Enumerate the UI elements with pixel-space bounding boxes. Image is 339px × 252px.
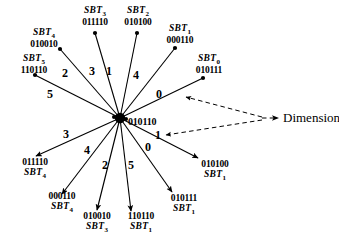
node-sbt-bot-left-1: SBT4 <box>3 168 67 180</box>
edge-label-up-1: 1 <box>106 64 112 79</box>
node-address-right-far: 010111 <box>177 66 241 76</box>
node-label-bot-left-1: 011110 SBT4 <box>3 158 67 180</box>
edge-label-up-5: 5 <box>47 87 53 102</box>
node-address-left-far: 110110 <box>3 66 65 76</box>
node-label-left-far: SBT5 110110 <box>3 54 65 76</box>
node-sbt-right-low: SBT1 <box>183 170 247 182</box>
edge-label-up-2: 2 <box>62 66 68 81</box>
annotation-arrow-to-1 <box>166 120 262 135</box>
spoke-dim-2-up <box>60 49 120 118</box>
annotation-arrow-to-0 <box>186 97 262 117</box>
edge-label-down-0: 0 <box>145 140 151 155</box>
edge-label-down-4: 4 <box>84 143 90 158</box>
node-sbt-bot-right-1: SBT1 <box>152 204 216 216</box>
node-label-bot-right-1: 010111 SBT1 <box>152 194 216 216</box>
center-node-address: 010110 <box>128 116 156 127</box>
spoke-dim-3-down <box>36 118 120 156</box>
edge-label-up-0: 0 <box>156 87 162 102</box>
edge-label-up-3: 3 <box>89 64 95 79</box>
edge-label-up-4: 4 <box>133 68 139 83</box>
node-sbt-bot-2: SBT1 <box>110 222 172 234</box>
edge-label-down-3: 3 <box>63 127 69 142</box>
node-address-top-right-1: 000110 <box>148 36 212 46</box>
spoke-dim-4-down <box>62 118 120 194</box>
edge-label-down-2: 2 <box>102 158 108 173</box>
spoke-dim-2-down <box>97 118 120 210</box>
figure-canvas: SBT4 010010 SBT3 011110 SBT2 010100 SBT1… <box>0 0 339 252</box>
edge-label-down-1: 1 <box>155 128 161 143</box>
dimension-annotation-label: Dimension <box>283 110 339 126</box>
node-address-top-left-2: 010010 <box>12 40 76 50</box>
node-label-right-far: SBT0 010111 <box>177 54 241 76</box>
node-label-top-left-2: SBT4 010010 <box>12 28 76 50</box>
spoke-dim-4-up <box>120 48 175 118</box>
center-node-dot <box>112 113 128 123</box>
annotation-arrows <box>166 97 274 135</box>
edge-label-down-5: 5 <box>128 158 134 173</box>
node-label-top-right-1: SBT1 000110 <box>148 24 212 46</box>
node-label-right-low: 010100 SBT1 <box>183 160 247 182</box>
